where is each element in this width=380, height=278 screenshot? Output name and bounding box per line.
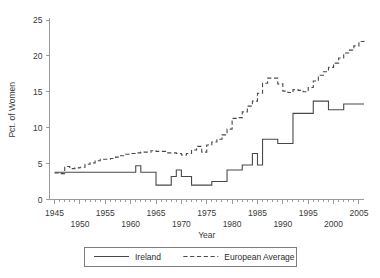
x-tick-label: 2005 <box>349 208 368 218</box>
y-axis-title: Pct. of Women <box>7 82 17 138</box>
chart-legend: IrelandEuropean Average <box>84 247 296 266</box>
x-tick-label: 1975 <box>197 208 216 218</box>
x-tick-label: 2000 <box>324 219 343 229</box>
line-chart: 0510152025 Pct. of Women 194519501955196… <box>0 0 380 278</box>
y-axis-group: 0510152025 Pct. of Women <box>7 15 50 205</box>
x-tick-label: 1985 <box>248 208 267 218</box>
x-tick-label: 1955 <box>96 208 115 218</box>
y-tick-label: 0 <box>38 195 43 205</box>
y-tick-label: 5 <box>38 159 43 169</box>
series-line-european-average <box>55 41 364 174</box>
y-tick-label: 25 <box>33 15 43 25</box>
chart-container: 0510152025 Pct. of Women 194519501955196… <box>0 0 380 278</box>
y-tick-label: 15 <box>33 87 43 97</box>
x-tick-label: 1960 <box>121 219 140 229</box>
y-axis-ticks: 0510152025 <box>33 15 49 205</box>
x-tick-label: 1980 <box>223 219 242 229</box>
legend-label-european-average: European Average <box>224 252 295 262</box>
x-axis-title: Year <box>198 230 215 240</box>
series-line-ireland <box>55 101 364 185</box>
x-tick-label: 1950 <box>70 219 89 229</box>
x-axis-group: 1945195019551960196519701975198019851990… <box>45 200 369 240</box>
x-tick-label: 1965 <box>147 208 166 218</box>
y-tick-label: 10 <box>33 123 43 133</box>
x-tick-label: 1990 <box>273 219 292 229</box>
x-axis-ticks: 1945195019551960196519701975198019851990… <box>45 200 369 229</box>
legend-label-ireland: Ireland <box>135 252 161 262</box>
x-tick-label: 1970 <box>172 219 191 229</box>
data-series-group <box>55 41 364 185</box>
x-tick-label: 1945 <box>45 208 64 218</box>
x-tick-label: 1995 <box>299 208 318 218</box>
y-tick-label: 20 <box>33 51 43 61</box>
